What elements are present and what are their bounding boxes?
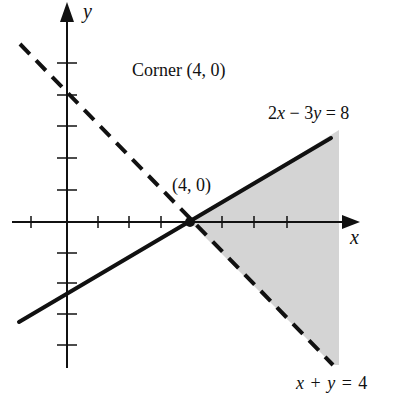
line2-op: + xyxy=(305,373,327,393)
line1-rhs: = 8 xyxy=(321,103,349,123)
corner-point-label: (4, 0) xyxy=(172,175,211,196)
y-axis-label: y xyxy=(83,0,92,23)
line2-var-x: x xyxy=(296,373,305,393)
x-axis-label: x xyxy=(350,226,359,249)
line1-coef: 2 xyxy=(268,103,277,123)
y-axis-arrow-icon xyxy=(60,2,74,22)
line1-op: − 3 xyxy=(285,103,313,123)
line1-var-y: y xyxy=(313,103,321,123)
corner-note: Corner (4, 0) xyxy=(132,60,225,81)
line1-label: 2x − 3y = 8 xyxy=(268,103,349,124)
line1-var-x: x xyxy=(277,103,285,123)
line2-var-y: y xyxy=(327,373,336,393)
line2-label: x + y = 4 xyxy=(296,373,368,394)
feasible-region xyxy=(190,130,339,365)
line2-rhs: = 4 xyxy=(336,373,368,393)
corner-point-marker xyxy=(185,217,195,227)
